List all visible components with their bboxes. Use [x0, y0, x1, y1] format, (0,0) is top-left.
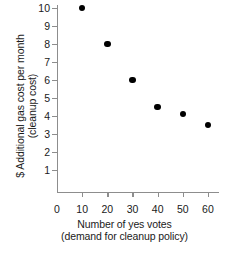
y-axis-tick	[52, 152, 57, 153]
x-axis-tick-label: 10	[70, 203, 94, 215]
y-axis-tick-label: 8	[30, 38, 50, 50]
x-axis-title-line-2: (demand for cleanup policy)	[0, 230, 249, 242]
y-axis-tick	[52, 116, 57, 117]
y-axis-tick	[52, 44, 57, 45]
x-axis-tick	[158, 192, 159, 197]
data-point	[205, 122, 212, 129]
x-axis-tick	[208, 192, 209, 197]
x-axis-tick-label: 30	[120, 203, 144, 215]
data-point	[154, 104, 161, 111]
y-axis-tick	[52, 26, 57, 27]
y-axis-tick-label: 1	[30, 164, 50, 176]
plot-area: 0102030405060	[57, 8, 213, 170]
data-point	[104, 41, 111, 48]
y-axis-tick-label: 4	[30, 110, 50, 122]
x-axis-tick	[107, 192, 108, 197]
y-axis-tick-label: 3	[30, 128, 50, 140]
x-axis-tick	[183, 192, 184, 197]
y-axis-tick	[52, 98, 57, 99]
x-axis-tick-label: 0	[45, 203, 69, 215]
y-axis-tick-label: 9	[30, 20, 50, 32]
x-axis-tick-label: 20	[95, 203, 119, 215]
x-axis-tick	[132, 192, 133, 197]
data-point	[129, 77, 136, 84]
y-axis-tick-label: 10	[30, 2, 50, 14]
x-axis-title: Number of yes votes (demand for cleanup …	[0, 218, 249, 243]
x-axis-tick-label: 40	[146, 203, 170, 215]
x-axis-tick	[82, 192, 83, 197]
y-axis-title: $ Additional gas cost per month (cleanup…	[13, 6, 41, 206]
data-point	[180, 111, 187, 118]
y-axis-tick	[52, 62, 57, 63]
y-axis-tick	[52, 170, 57, 171]
data-point	[79, 5, 86, 12]
y-axis-tick-label: 5	[30, 92, 50, 104]
y-axis-tick	[52, 134, 57, 135]
scatter-chart: $ Additional gas cost per month (cleanup…	[0, 0, 249, 254]
x-axis-title-line-1: Number of yes votes	[0, 218, 249, 230]
y-axis-tick-label: 7	[30, 56, 50, 68]
x-axis-tick-label: 60	[196, 203, 220, 215]
y-axis-tick-label: 6	[30, 74, 50, 86]
y-axis-tick	[52, 80, 57, 81]
y-axis-tick-label: 2	[30, 146, 50, 158]
y-axis-tick	[52, 8, 57, 9]
x-axis-tick-label: 50	[171, 203, 195, 215]
